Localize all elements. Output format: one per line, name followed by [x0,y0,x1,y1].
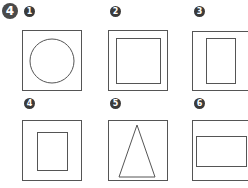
shapes-layer [0,0,248,188]
triangle-shape [119,125,155,177]
wide-rectangle-shape [197,137,247,167]
small-rectangle-shape [38,133,68,171]
circle-shape [30,39,74,83]
tall-rectangle-shape [207,39,236,84]
square-shape [117,39,161,84]
